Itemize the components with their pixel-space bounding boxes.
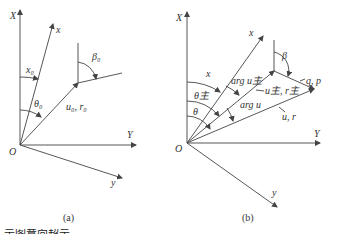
label-O-b: O <box>175 143 182 154</box>
diagram-a: X x Y y O x₀ θ₀ u₀, r₀ β₀ (a) <box>9 10 136 224</box>
label-arg-u: arg u <box>240 99 261 110</box>
label-O-a: O <box>9 146 16 157</box>
arc-x0 <box>20 77 38 79</box>
leader-q-p <box>300 79 305 81</box>
label-beta: β <box>281 50 287 61</box>
label-theta-main: θ主 <box>194 90 210 101</box>
caption-b: (b) <box>242 212 254 224</box>
label-y-b: y <box>271 187 277 198</box>
label-X-a: X <box>9 10 17 21</box>
label-u0-r0: u₀, r₀ <box>66 101 87 112</box>
label-theta: θ <box>193 106 198 117</box>
label-theta0: θ₀ <box>34 98 43 109</box>
label-x-a: x <box>55 24 61 35</box>
label-arg-u-main: arg u主 <box>231 75 263 86</box>
label-beta0: β₀ <box>91 51 101 62</box>
arc-theta-main <box>187 101 219 116</box>
y-axis-b <box>187 143 277 207</box>
heading-line-a <box>78 73 122 83</box>
caption-a: (a) <box>63 212 74 224</box>
figure-canvas: X x Y y O x₀ θ₀ u₀, r₀ β₀ (a) X x Y y O … <box>0 0 337 234</box>
y-axis-a <box>20 145 122 178</box>
arc-arg-u-main <box>226 86 239 95</box>
label-x-b: x <box>248 27 254 38</box>
arc-beta0 <box>78 62 96 79</box>
label-Y-a: Y <box>127 129 134 140</box>
arc-arg-u <box>227 108 233 121</box>
arc-theta0 <box>20 110 41 117</box>
label-q-p: q, p <box>306 75 321 86</box>
label-Y-b: Y <box>314 128 321 139</box>
label-x-angle: x <box>205 68 211 79</box>
diagram-b: X x Y y O x θ主 θ arg u主 arg u u主, r主 u, … <box>175 12 321 224</box>
label-X-b: X <box>175 12 183 23</box>
label-u-r: u, r <box>282 111 296 122</box>
leader-u-main <box>256 90 264 91</box>
label-u-main-r-main: u主, r主 <box>265 85 300 96</box>
label-y-a: y <box>110 177 116 188</box>
label-x0: x₀ <box>25 64 34 75</box>
truncated-footer-text: 示图意向超示 <box>4 229 304 234</box>
